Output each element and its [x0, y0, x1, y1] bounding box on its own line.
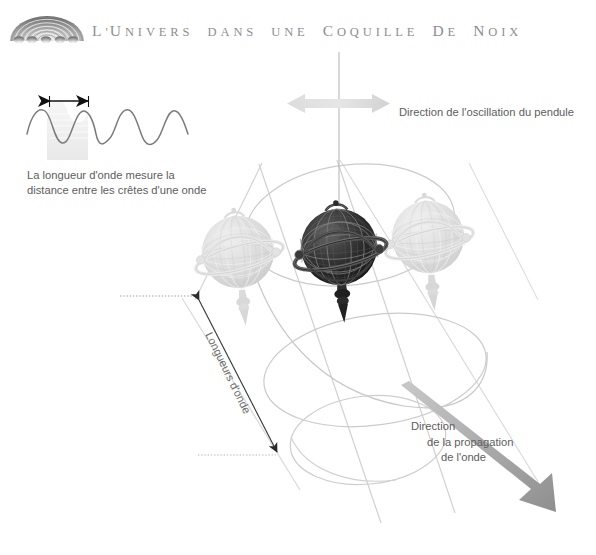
propagation-label: Direction de la propagation de l'onde	[411, 419, 541, 466]
wave-helix-structure	[180, 153, 548, 523]
wave-pendulum-diagram	[0, 0, 596, 555]
globe-center	[288, 197, 393, 326]
helix-right-diagonal	[469, 163, 538, 300]
propagation-label-line2: de la propagation	[411, 435, 541, 451]
wavelength-caption: La longueur d'onde mesure la distance en…	[27, 168, 242, 198]
globe-ghost-right	[379, 189, 482, 315]
wavelength-caption-line1: La longueur d'onde mesure la	[27, 169, 175, 181]
propagation-label-line1: Direction	[411, 420, 455, 432]
wavelength-caption-line2: distance entre les crêtes d'une onde	[27, 184, 206, 196]
globe-ghost-left	[188, 203, 293, 330]
propagation-label-line3: de l'onde	[411, 450, 541, 466]
oscillation-label: Direction de l'oscillation du pendule	[399, 106, 574, 118]
wavelength-double-arrow	[199, 300, 277, 452]
wavelength-inset-figure	[27, 96, 188, 160]
illustration-page: L'UNIVERS DANS UNE COQUILLE DE NOIX	[0, 0, 596, 555]
helix-sweep-lower	[291, 437, 396, 481]
